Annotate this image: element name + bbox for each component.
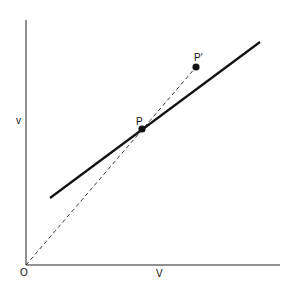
diagram-canvas: P P′ v O V — [0, 0, 293, 293]
solid-line — [50, 42, 260, 198]
x-axis-label: V — [156, 268, 163, 279]
point-p-label: P — [136, 116, 143, 127]
point-p-prime — [192, 63, 199, 70]
point-p-prime-label: P′ — [194, 52, 203, 63]
dashed-ray-line — [26, 67, 196, 265]
y-axis-label: v — [16, 115, 21, 126]
origin-label: O — [20, 267, 28, 278]
